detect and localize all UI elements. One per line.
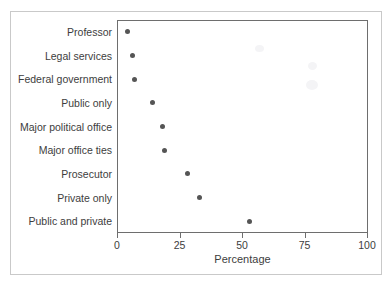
category-label: Private only [0, 192, 112, 203]
category-label: Professor [0, 26, 112, 37]
x-axis-tick-label: 100 [358, 239, 376, 251]
data-point [130, 53, 135, 58]
category-label: Major office ties [0, 145, 112, 156]
category-label: Major political office [0, 121, 112, 132]
x-axis-tick-label: 25 [174, 239, 186, 251]
data-point [160, 124, 165, 129]
x-axis-tick-label: 75 [299, 239, 311, 251]
data-point [150, 100, 155, 105]
data-point [247, 219, 252, 224]
data-point [197, 195, 202, 200]
category-label: Legal services [0, 50, 112, 61]
x-axis-tick-label: 50 [236, 239, 248, 251]
x-axis-title: Percentage [117, 253, 368, 265]
x-axis-tick-mark [117, 233, 118, 238]
x-axis-tick-mark [180, 233, 181, 238]
category-label: Prosecutor [0, 168, 112, 179]
data-point [125, 29, 130, 34]
x-axis-tick-mark [242, 233, 243, 238]
data-point [162, 148, 167, 153]
category-axis-labels: ProfessorLegal servicesFederal governmen… [0, 20, 112, 233]
category-label: Public and private [0, 216, 112, 227]
x-axis-tick-mark [367, 233, 368, 238]
plot-panel [117, 20, 368, 233]
category-label: Public only [0, 97, 112, 108]
category-label: Federal government [0, 74, 112, 85]
data-point [132, 77, 137, 82]
x-axis-tick-label: 0 [114, 239, 120, 251]
x-axis-tick-mark [305, 233, 306, 238]
dot-plot-figure: ProfessorLegal servicesFederal governmen… [0, 0, 392, 287]
data-point [185, 171, 190, 176]
